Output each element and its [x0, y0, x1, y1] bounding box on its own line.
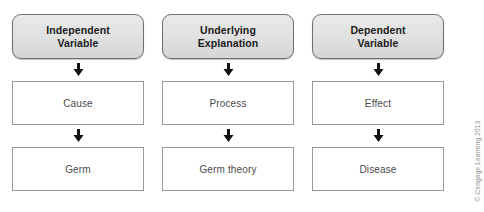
- box-label: Cause: [63, 98, 93, 109]
- box-label: Disease: [359, 164, 396, 175]
- header-label-line1: Dependent: [350, 24, 405, 37]
- header-label-line1: Underlying: [198, 24, 259, 37]
- diagram-column-independent-variable: Independent Variable Cause Germ: [12, 14, 144, 198]
- down-arrow-icon: [223, 63, 234, 77]
- arrow-header-to-middle: [373, 59, 384, 81]
- box-disease: Disease: [312, 147, 444, 191]
- header-label-line1: Independent: [46, 24, 110, 37]
- box-process: Process: [162, 81, 294, 125]
- arrow-middle-to-bottom: [373, 125, 384, 147]
- box-label: Effect: [365, 98, 391, 109]
- down-arrow-icon: [73, 63, 84, 77]
- arrow-middle-to-bottom: [73, 125, 84, 147]
- down-arrow-icon: [373, 129, 384, 143]
- box-label: Germ theory: [199, 164, 256, 175]
- box-label: Process: [209, 98, 246, 109]
- copyright-credit: © Cengage Learning 2013: [471, 118, 483, 204]
- diagram-columns: Independent Variable Cause Germ: [12, 14, 444, 198]
- arrow-header-to-middle: [223, 59, 234, 81]
- header-box-dependent-variable: Dependent Variable: [312, 14, 444, 59]
- header-label: Independent Variable: [46, 24, 110, 50]
- diagram-column-underlying-explanation: Underlying Explanation Process Germ theo…: [162, 14, 294, 198]
- header-label: Dependent Variable: [350, 24, 405, 50]
- box-effect: Effect: [312, 81, 444, 125]
- causal-chain-diagram: · · · · Independent Variable Cause: [0, 0, 484, 212]
- header-label-line2: Explanation: [198, 37, 259, 50]
- diagram-column-dependent-variable: Dependent Variable Effect Disease: [312, 14, 444, 198]
- down-arrow-icon: [223, 129, 234, 143]
- box-germ-theory: Germ theory: [162, 147, 294, 191]
- top-edge-text-artifacts: · · · ·: [0, 0, 484, 6]
- header-box-underlying-explanation: Underlying Explanation: [162, 14, 294, 59]
- header-label-line2: Variable: [350, 37, 405, 50]
- header-label: Underlying Explanation: [198, 24, 259, 50]
- box-label: Germ: [65, 164, 91, 175]
- arrow-middle-to-bottom: [223, 125, 234, 147]
- arrow-header-to-middle: [73, 59, 84, 81]
- down-arrow-icon: [373, 63, 384, 77]
- header-box-independent-variable: Independent Variable: [12, 14, 144, 59]
- copyright-credit-text: © Cengage Learning 2013: [474, 121, 481, 202]
- box-cause: Cause: [12, 81, 144, 125]
- down-arrow-icon: [73, 129, 84, 143]
- box-germ: Germ: [12, 147, 144, 191]
- header-label-line2: Variable: [46, 37, 110, 50]
